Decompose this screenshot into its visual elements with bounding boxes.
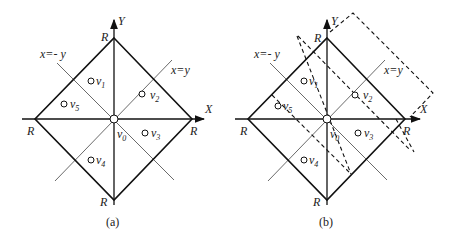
caption-a: (a) [106, 215, 119, 229]
v5-label: v5 [283, 99, 292, 115]
axis-x-label: X [419, 102, 428, 116]
point-v4 [301, 157, 307, 163]
panel-a: Y X R R R R x=- y x=y v1 v2 v3 v4 v5 v0 … [22, 14, 213, 229]
axis-y-label: Y [118, 14, 126, 28]
v0-label: v0 [117, 127, 126, 143]
point-v1 [88, 78, 94, 84]
point-v0 [110, 115, 118, 123]
v4-label: v4 [96, 153, 105, 169]
vertex-right-label: R [189, 124, 198, 138]
point-v3 [142, 130, 148, 136]
v2-label: v2 [363, 88, 372, 104]
vertex-left-label: R [239, 124, 248, 138]
point-v2 [139, 91, 145, 97]
vertex-right-label: R [402, 124, 411, 138]
vertex-top-label: R [313, 31, 322, 45]
v3-label: v3 [364, 126, 373, 142]
point-v0 [323, 115, 331, 123]
v2-label: v2 [150, 88, 159, 104]
point-v1 [301, 78, 307, 84]
point-v3 [355, 130, 361, 136]
point-v5 [275, 103, 281, 109]
v3-label: v3 [151, 126, 160, 142]
vertex-bottom-label: R [312, 195, 321, 209]
line-pos-label: x=y [170, 63, 190, 77]
v0-label: v0 [330, 127, 339, 143]
vertex-bottom-label: R [99, 195, 108, 209]
line-neg-label: x=- y [253, 47, 280, 61]
v5-label: v5 [70, 97, 79, 113]
axis-x-label: X [204, 102, 213, 116]
point-v5 [61, 101, 67, 107]
v1-label: v1 [96, 74, 105, 90]
diagram-canvas: Y X R R R R x=- y x=y v1 v2 v3 v4 v5 v0 … [0, 0, 456, 242]
v4-label: v4 [309, 153, 318, 169]
panel-b: Y X R R R R x=- y x=y v1 v2 v3 v4 v5 v0 … [235, 13, 433, 229]
point-v2 [352, 92, 358, 98]
line-pos-label: x=y [383, 63, 403, 77]
caption-b: (b) [319, 215, 333, 229]
line-neg-label: x=- y [39, 47, 66, 61]
vertex-left-label: R [26, 124, 35, 138]
point-v4 [88, 157, 94, 163]
v1-label: v1 [309, 74, 318, 90]
vertex-top-label: R [100, 30, 109, 44]
